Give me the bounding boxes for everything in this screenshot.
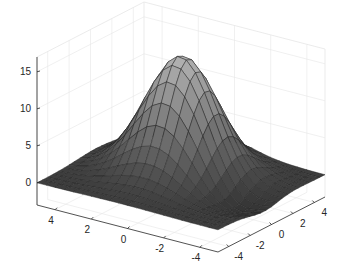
z-tick <box>37 108 40 109</box>
y-tick-label: -2 <box>256 240 265 251</box>
x-tick-label: 4 <box>48 215 54 226</box>
x-tick-label: -2 <box>155 243 164 254</box>
y-tick-label: 0 <box>279 229 285 240</box>
x-tick-label: -4 <box>191 252 200 263</box>
y-tick-label: -4 <box>234 251 243 262</box>
y-tick-label: 2 <box>300 218 306 229</box>
y-tick-label: 4 <box>322 207 328 218</box>
z-tick-label: 0 <box>25 177 31 188</box>
x-tick-label: 2 <box>85 224 91 235</box>
surface-plot: 051015-4-2024-4-2024 <box>0 0 343 278</box>
z-tick <box>37 145 40 146</box>
z-tick <box>37 71 40 72</box>
z-tick-label: 5 <box>25 140 31 151</box>
surface-plot-figure: 051015-4-2024-4-2024 <box>0 0 343 278</box>
x-tick-label: 0 <box>121 234 127 245</box>
surface-mesh <box>37 56 325 230</box>
z-tick-label: 10 <box>20 103 32 114</box>
z-tick-label: 15 <box>20 66 32 77</box>
